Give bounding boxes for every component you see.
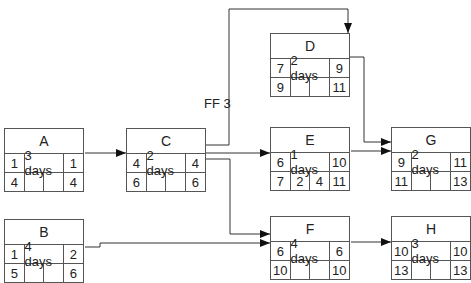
duration: 2 days bbox=[290, 59, 329, 77]
duration: 4 days bbox=[290, 242, 329, 260]
node-b[interactable]: B 1 4 days 2 5 6 bbox=[4, 219, 84, 283]
late-finish: 11 bbox=[329, 172, 349, 190]
late-finish: 6 bbox=[185, 173, 205, 191]
duration: 1 days bbox=[290, 153, 329, 171]
late-finish: 13 bbox=[450, 172, 470, 190]
late-finish: 10 bbox=[329, 261, 349, 279]
duration: 3 days bbox=[411, 242, 450, 260]
early-start: 6 bbox=[271, 153, 290, 171]
early-finish: 9 bbox=[329, 59, 349, 77]
free-float bbox=[146, 173, 166, 191]
early-finish: 6 bbox=[329, 242, 349, 260]
early-start: 4 bbox=[127, 154, 146, 172]
free-float bbox=[290, 261, 310, 279]
free-float bbox=[411, 172, 431, 190]
duration: 2 days bbox=[146, 154, 185, 172]
early-finish: 1 bbox=[63, 154, 83, 172]
total-float bbox=[430, 172, 450, 190]
node-g[interactable]: G 9 2 days 11 11 13 bbox=[391, 127, 471, 191]
early-finish: 11 bbox=[450, 153, 470, 171]
total-float bbox=[309, 78, 329, 96]
duration: 3 days bbox=[24, 154, 63, 172]
late-start: 5 bbox=[5, 264, 24, 282]
early-finish: 10 bbox=[329, 153, 349, 171]
late-start: 11 bbox=[392, 172, 411, 190]
total-float bbox=[43, 264, 63, 282]
late-finish: 11 bbox=[329, 78, 349, 96]
free-float bbox=[24, 173, 44, 191]
duration: 4 days bbox=[24, 245, 63, 263]
node-h[interactable]: H 10 3 days 10 13 13 bbox=[391, 216, 471, 280]
node-e[interactable]: E 6 1 days 10 7 2 4 11 bbox=[270, 127, 350, 191]
lag-label: FF 3 bbox=[204, 96, 231, 111]
late-start: 10 bbox=[271, 261, 290, 279]
total-float bbox=[43, 173, 63, 191]
early-finish: 4 bbox=[185, 154, 205, 172]
node-f[interactable]: F 6 4 days 6 10 10 bbox=[270, 216, 350, 280]
early-start: 10 bbox=[392, 242, 411, 260]
early-start: 6 bbox=[271, 242, 290, 260]
late-start: 13 bbox=[392, 261, 411, 279]
free-float bbox=[290, 78, 310, 96]
early-start: 7 bbox=[271, 59, 290, 77]
free-float: 2 bbox=[290, 172, 310, 190]
late-start: 9 bbox=[271, 78, 290, 96]
late-start: 4 bbox=[5, 173, 24, 191]
total-float: 4 bbox=[309, 172, 329, 190]
late-finish: 13 bbox=[450, 261, 470, 279]
early-finish: 2 bbox=[63, 245, 83, 263]
node-d[interactable]: D 7 2 days 9 9 11 bbox=[270, 33, 350, 97]
early-start: 9 bbox=[392, 153, 411, 171]
free-float bbox=[411, 261, 431, 279]
total-float bbox=[309, 261, 329, 279]
early-start: 1 bbox=[5, 245, 24, 263]
total-float bbox=[165, 173, 185, 191]
late-finish: 6 bbox=[63, 264, 83, 282]
duration: 2 days bbox=[411, 153, 450, 171]
free-float bbox=[24, 264, 44, 282]
late-start: 7 bbox=[271, 172, 290, 190]
late-start: 6 bbox=[127, 173, 146, 191]
early-start: 1 bbox=[5, 154, 24, 172]
late-finish: 4 bbox=[63, 173, 83, 191]
node-c[interactable]: C 4 2 days 4 6 6 bbox=[126, 128, 206, 192]
node-a[interactable]: A 1 3 days 1 4 4 bbox=[4, 128, 84, 192]
early-finish: 10 bbox=[450, 242, 470, 260]
total-float bbox=[430, 261, 450, 279]
